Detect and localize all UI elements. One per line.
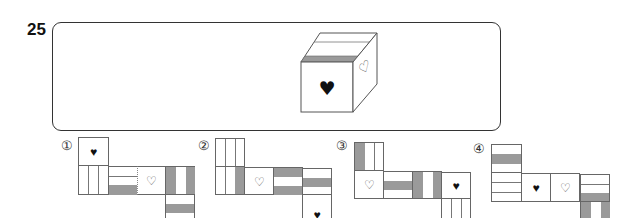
net1-face-gray-vstripes — [165, 166, 195, 195]
net4-face-solid-heart: ♥ — [521, 173, 551, 202]
net2-face-gray-hstripes — [273, 167, 303, 195]
option-2-label[interactable]: ② — [198, 138, 210, 153]
net4-face-hstripes — [491, 172, 522, 202]
outline-heart-icon: ♡ — [551, 182, 579, 194]
net1-face-hstripes — [108, 166, 138, 195]
solid-heart-icon: ♥ — [522, 182, 550, 194]
net2-face-bottom: ♥ — [302, 194, 332, 218]
net3-face-gray-hband — [383, 171, 413, 199]
net1-face-vstripes — [78, 165, 109, 195]
outline-heart-icon: ♡ — [355, 179, 383, 191]
net3-face-solid-heart: ♥ — [441, 172, 471, 199]
net4-face-bottom — [580, 201, 610, 218]
solid-heart-icon: ♥ — [303, 209, 331, 218]
net2-face-gray-center — [302, 168, 332, 195]
net2-face-top — [215, 138, 245, 167]
outline-heart-icon: ♡ — [138, 175, 165, 187]
option-3-label[interactable]: ③ — [336, 138, 348, 153]
net4-face-gray-bottom — [580, 174, 610, 202]
net1-face-bottom — [165, 194, 195, 218]
net3-face-outline-heart: ♡ — [354, 170, 384, 199]
cube-top-gray-band — [301, 56, 361, 62]
option-1-label[interactable]: ① — [61, 138, 73, 153]
net1-face-outline-heart: ♡ — [137, 166, 166, 195]
net1-face-top: ♥ — [78, 137, 109, 166]
net4-face-top — [491, 144, 522, 173]
solid-heart-icon: ♥ — [442, 180, 470, 192]
solid-heart-icon: ♥ — [318, 77, 335, 99]
option-4-label[interactable]: ④ — [473, 141, 485, 156]
solid-heart-icon: ♥ — [79, 146, 108, 158]
net3-face-bottom — [441, 198, 471, 218]
net3-face-top — [354, 142, 384, 171]
net3-face-gray-vstripes — [412, 171, 442, 199]
net2-face-outline-heart: ♡ — [244, 167, 274, 195]
net4-face-outline-heart: ♡ — [550, 173, 580, 202]
net2-face-vstripes-gray — [215, 166, 245, 195]
outline-heart-icon: ♡ — [245, 176, 273, 188]
